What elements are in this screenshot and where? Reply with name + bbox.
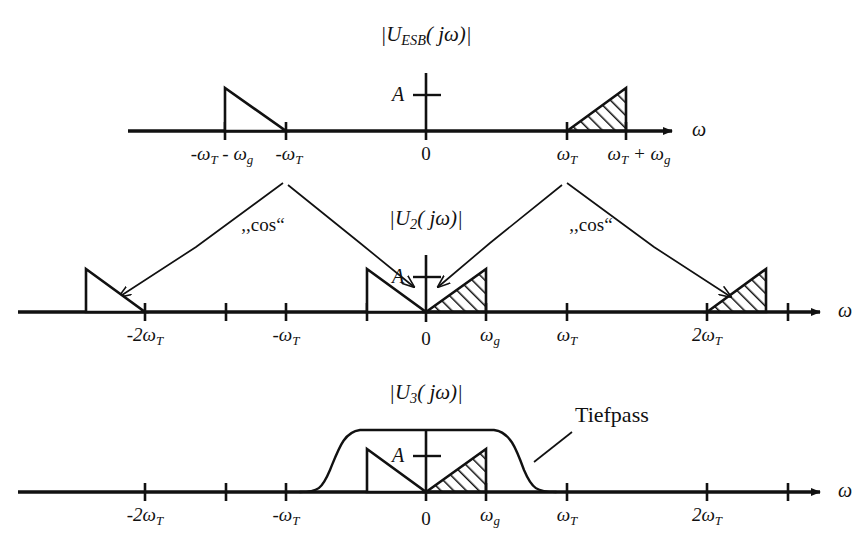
panel-u3-axis-label: ω: [838, 480, 852, 500]
panel-esb-title-u: |U: [380, 22, 401, 46]
tl-a: -ω: [276, 143, 296, 164]
u2-lobe-image-minus-2wT: [86, 269, 145, 312]
panel-u3-tick-label-zero: 0: [421, 509, 431, 528]
tl-a-sub: T: [156, 333, 163, 348]
panel-esb-tick-label-wT-plus-wg: ωT + ωg: [608, 144, 671, 167]
panel-u3-tick-label-2wT: 2ωT: [692, 505, 722, 528]
panel-esb-axis-label: ω: [692, 119, 706, 139]
tl-b-sub: g: [664, 152, 670, 167]
panel-u2-title: |U2( jω)|: [389, 208, 463, 231]
tl-b: + ω: [628, 143, 664, 164]
panel-u2-axis-label: ω: [838, 300, 852, 320]
panel-u2-tick-label-minus-2wT: -2ωT: [127, 325, 163, 348]
tl-a: ω: [608, 143, 621, 164]
tl-a: -ω: [273, 324, 293, 345]
panel-u3-amplitude-label: A: [392, 445, 404, 465]
panel-esb-tick-label-zero: 0: [421, 144, 431, 163]
tl-a: 2ω: [692, 324, 715, 345]
tl-a: -ω: [273, 504, 293, 525]
panel-u2-tick-label-2wT: 2ωT: [692, 325, 722, 348]
tl-a-sub: T: [570, 152, 577, 167]
tl-a-sub: T: [621, 152, 628, 167]
tl-a: -2ω: [127, 324, 156, 345]
panel-u3-graphics: [18, 430, 820, 501]
panel-u3-title-tail: ( jω)|: [417, 380, 463, 404]
panel-u2-graphics: [18, 255, 820, 322]
panel-u3-title: |U3( jω)|: [389, 382, 463, 405]
tl-a-sub: T: [715, 333, 722, 348]
lowpass-response-curve: [300, 430, 556, 492]
panel-u3-tick-label-minus-wT: -ωT: [273, 505, 300, 528]
panel-esb-tick-label-minus-wT: -ωT: [276, 144, 303, 167]
cos-label-left: ,,cos“: [241, 215, 284, 234]
arrow-left-to-minus2wT: [119, 183, 283, 297]
tl-b-sub: g: [247, 152, 253, 167]
tiefpass-leader-line: [534, 432, 572, 462]
tl-a-sub: T: [295, 152, 302, 167]
panel-u3-tick-label-wg: ωg: [480, 505, 500, 528]
tl-a: 2ω: [692, 504, 715, 525]
tl-a-sub: g: [493, 513, 499, 528]
panel-esb-amplitude-label: A: [392, 84, 404, 104]
panel-u2-tick-label-zero: 0: [421, 329, 431, 348]
panel-u2-tick-label-wT: ωT: [557, 325, 578, 348]
tl-a-sub: T: [292, 333, 299, 348]
cos-label-right: ,,cos“: [569, 215, 612, 234]
arrow-right-to-baseband: [438, 185, 562, 287]
tl-a: -ω: [191, 143, 211, 164]
tl-a-sub: T: [570, 333, 577, 348]
esb-lobe-upper-sideband: [567, 88, 626, 131]
esb-lobe-lower-sideband: [225, 88, 286, 131]
tl-a: -2ω: [127, 504, 156, 525]
panel-u3-title-u: |U: [389, 380, 410, 404]
tiefpass-label: Tiefpass: [575, 404, 649, 426]
tl-a-sub: T: [715, 513, 722, 528]
tl-a-sub: g: [493, 333, 499, 348]
panel-esb-tick-label-wT: ωT: [557, 144, 578, 167]
tl-a: ω: [557, 504, 570, 525]
tl-a-sub: T: [292, 513, 299, 528]
panel-u3-tick-label-wT: ωT: [557, 505, 578, 528]
panel-u2-title-u: |U: [389, 206, 410, 230]
panel-u2-tick-label-minus-wT: -ωT: [273, 325, 300, 348]
tl-a: ω: [557, 324, 570, 345]
tl-a: ω: [557, 143, 570, 164]
tl-a-sub: T: [210, 152, 217, 167]
figure-vector-layer: [0, 0, 864, 540]
tl-b: - ω: [218, 143, 247, 164]
tl-a: ω: [480, 324, 493, 345]
tl-a-sub: T: [156, 513, 163, 528]
panel-u2-tick-label-wg: ωg: [480, 325, 500, 348]
panel-esb-tick-label-minus-wT-minus-wg: -ωT - ωg: [191, 144, 254, 167]
tl-a: ω: [480, 504, 493, 525]
panel-esb-title: |UESB( jω)|: [380, 24, 471, 47]
panel-u3-tick-label-minus-2wT: -2ωT: [127, 505, 163, 528]
panel-esb-title-tail: ( jω)|: [426, 22, 472, 46]
panel-u2-title-tail: ( jω)|: [417, 206, 463, 230]
panel-u2-amplitude-label: A: [392, 266, 404, 286]
figure-canvas: |UESB( jω)| A ω 0 -ωT - ωg -ωT ωT ωT + ω…: [0, 0, 864, 540]
u2-lobe-image-plus-2wT: [707, 269, 766, 312]
u2-lobe-baseband-positive: [426, 269, 486, 312]
tl-a-sub: T: [570, 513, 577, 528]
panel-esb-title-subscript: ESB: [401, 32, 426, 48]
arrow-right-to-plus2wT: [567, 183, 731, 297]
